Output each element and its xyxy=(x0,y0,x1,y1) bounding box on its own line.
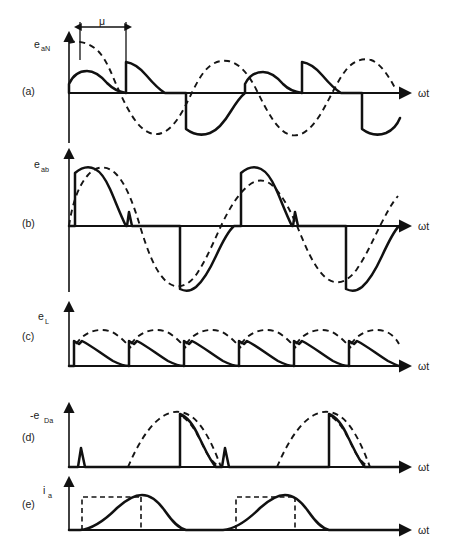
waveform-c xyxy=(69,341,399,366)
waveform-e xyxy=(69,495,399,530)
x-axis-label-d: ωt xyxy=(418,461,429,473)
panel-e: (e) i a ωt xyxy=(22,484,429,536)
waveform-d xyxy=(69,414,399,467)
envelope-c-1 xyxy=(76,330,131,348)
panel-b: (b) e ab ωt xyxy=(22,158,429,292)
signal-label-e: i xyxy=(43,484,45,496)
x-axis-label-c: ωt xyxy=(418,360,429,372)
envelope-d-1 xyxy=(128,412,221,467)
x-axis-label-e: ωt xyxy=(418,524,429,536)
panel-c: (c) e L ωt xyxy=(22,310,429,372)
signal-label-d: -e xyxy=(30,409,39,421)
signal-sublabel-e: a xyxy=(48,491,52,500)
panel-letter-c: (c) xyxy=(22,330,34,342)
signal-sublabel-d: Da xyxy=(44,416,53,425)
x-axis-label-b: ωt xyxy=(418,220,429,232)
mu-annotation-label: μ xyxy=(99,15,105,27)
waveform-b xyxy=(69,167,399,290)
signal-sublabel-c: L xyxy=(45,317,49,326)
panel-letter-a: (a) xyxy=(22,85,35,97)
signal-sublabel-b: ab xyxy=(41,165,49,174)
panel-letter-d: (d) xyxy=(22,431,35,443)
signal-label-c: e xyxy=(38,310,44,322)
panel-a: (a) e aN ωt μ xyxy=(22,15,429,143)
signal-sublabel-a: aN xyxy=(41,44,50,53)
x-axis-label-a: ωt xyxy=(418,87,429,99)
envelope-c-5 xyxy=(296,330,351,348)
panel-letter-e: (e) xyxy=(22,498,35,510)
waveform-figure: (a) e aN ωt μ (b) e ab ωt (c) e L xyxy=(0,0,450,550)
envelope-c-4 xyxy=(241,330,296,348)
envelope-c-3 xyxy=(186,330,241,348)
envelope-c-2 xyxy=(131,330,186,348)
panel-letter-b: (b) xyxy=(22,217,35,229)
waveform-a xyxy=(69,62,400,135)
panel-d: (d) -e Da ωt xyxy=(22,409,429,473)
signal-label-a: e xyxy=(34,38,40,50)
reference-sine-a xyxy=(69,42,396,136)
envelope-d-2 xyxy=(277,412,370,467)
signal-label-b: e xyxy=(34,158,40,170)
